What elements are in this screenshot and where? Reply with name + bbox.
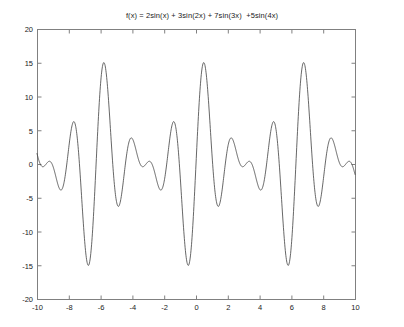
x-tick-label: -10 [32, 303, 43, 312]
x-tick-label: -4 [130, 303, 137, 312]
x-tick-label: -6 [98, 303, 105, 312]
x-tick-label: -2 [161, 303, 168, 312]
plot-area: -20-15-10-505101520 -10-8-6-4-20246810 [0, 0, 404, 327]
y-tick-label: -5 [26, 194, 33, 203]
y-tick-label: 0 [29, 160, 33, 169]
figure-canvas: f(x) = 2sin(x) + 3sin(2x) + 7sin(3x) +5s… [0, 0, 404, 327]
y-tick-label: 15 [25, 59, 33, 68]
x-tick-label: 10 [351, 303, 359, 312]
x-tick-label: 2 [226, 303, 230, 312]
y-tick-label: -10 [22, 228, 33, 237]
tick-marks [38, 30, 356, 300]
axes-box [38, 30, 356, 300]
x-tick-label: 6 [290, 303, 294, 312]
series-line [37, 63, 355, 266]
y-tick-label: 10 [25, 93, 33, 102]
x-axis-tick-labels: -10-8-6-4-20246810 [32, 303, 360, 312]
y-tick-label: 20 [25, 25, 33, 34]
y-axis-tick-labels: -20-15-10-505101520 [22, 25, 33, 304]
x-tick-label: 8 [322, 303, 326, 312]
x-tick-label: 0 [194, 303, 198, 312]
y-tick-label: -15 [22, 262, 33, 271]
x-tick-label: 4 [258, 303, 262, 312]
y-tick-label: 5 [29, 127, 33, 136]
data-series [37, 63, 355, 266]
x-tick-label: -8 [66, 303, 73, 312]
